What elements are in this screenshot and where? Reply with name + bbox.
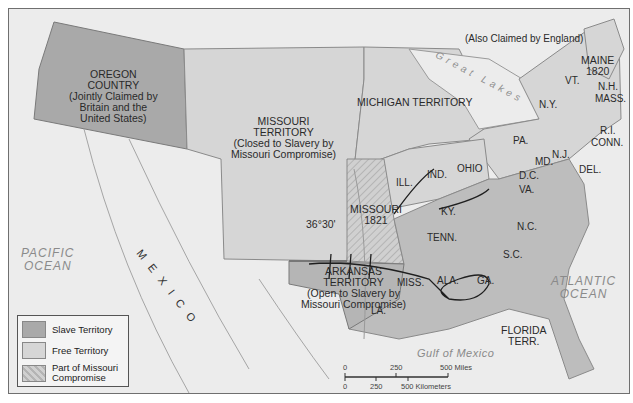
pacific-ocean-label: PACIFIC OCEAN: [21, 247, 74, 273]
oregon-country-label: OREGON COUNTRY (Jointly Claimed by Brita…: [69, 69, 158, 124]
gulf-of-mexico-label: Gulf of Mexico: [417, 347, 494, 359]
state-vt: VT.: [565, 75, 579, 86]
atlantic-ocean-label: ATLANTIC OCEAN: [551, 275, 616, 301]
scale-bar: 0 250 500 Miles 0 250 500 Kilometers: [343, 362, 473, 392]
state-dc: D.C.: [519, 170, 539, 181]
map-frame: OREGON COUNTRY (Jointly Claimed by Brita…: [8, 8, 630, 394]
state-pa: PA.: [513, 135, 528, 146]
missouri-state-label: MISSOURI 1821: [350, 204, 402, 226]
michigan-territory-label: MICHIGAN TERRITORY: [357, 97, 473, 108]
state-ri: R.I.: [600, 125, 616, 136]
state-del: DEL.: [579, 164, 601, 175]
state-tenn: TENN.: [427, 232, 457, 243]
state-ga: GA.: [477, 275, 494, 286]
florida-territory-label: FLORIDA TERR.: [501, 325, 547, 347]
state-sc: S.C.: [503, 249, 522, 260]
state-ohio: OHIO: [457, 163, 483, 174]
state-nj: N.J.: [552, 149, 570, 160]
state-md: MD.: [535, 156, 553, 167]
state-miss: MISS.: [397, 277, 424, 288]
state-nh: N.H.: [598, 81, 618, 92]
legend-swatch-hatched: [22, 365, 46, 382]
state-ny: N.Y.: [539, 99, 557, 110]
maine-label: MAINE 1820: [581, 55, 614, 77]
map-legend: Slave Territory Free Territory Part of M…: [17, 315, 129, 387]
state-ind: IND.: [427, 169, 447, 180]
missouri-territory-label: MISSOURI TERRITORY (Closed to Slavery by…: [231, 116, 336, 160]
state-ala: ALA.: [437, 275, 459, 286]
maine-note: (Also Claimed by England): [465, 33, 583, 44]
state-conn: CONN.: [591, 137, 623, 148]
arkansas-territory-label: ARKANSAS TERRITORY (Open to Slavery by M…: [301, 266, 406, 310]
latitude-label: 36°30': [306, 219, 336, 230]
state-nc: N.C.: [517, 221, 537, 232]
state-la: LA.: [371, 305, 386, 316]
legend-missouri-compromise: Part of Missouri Compromise: [22, 363, 118, 383]
state-ky: KY.: [441, 206, 456, 217]
legend-free: Free Territory: [22, 342, 108, 359]
legend-slave: Slave Territory: [22, 321, 113, 338]
state-ill: ILL.: [396, 177, 413, 188]
state-mass: MASS.: [595, 93, 626, 104]
legend-swatch-slave: [22, 321, 46, 338]
legend-swatch-free: [22, 342, 46, 359]
state-va: VA.: [519, 184, 534, 195]
